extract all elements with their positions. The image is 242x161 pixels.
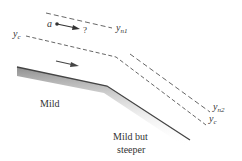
normal-depth-line-2 <box>130 54 210 112</box>
point-a-arrowhead-icon <box>72 25 80 30</box>
channel-diagram: a ? yn1 yc yn2 yc Mild Mild but steeper <box>0 0 242 161</box>
label-yc-right: yc <box>208 113 217 126</box>
normal-depth-line-1 <box>46 13 112 28</box>
label-yn2: yn2 <box>212 101 225 114</box>
label-steeper-line2: steeper <box>117 144 146 155</box>
label-a: a <box>47 18 52 29</box>
label-yn1: yn1 <box>115 22 127 35</box>
label-yc-left: yc <box>12 28 21 41</box>
label-question: ? <box>83 25 87 35</box>
flow-arrowhead-icon <box>70 62 79 67</box>
label-mild: Mild <box>40 98 59 109</box>
label-steeper-line1: Mild but <box>113 131 148 142</box>
